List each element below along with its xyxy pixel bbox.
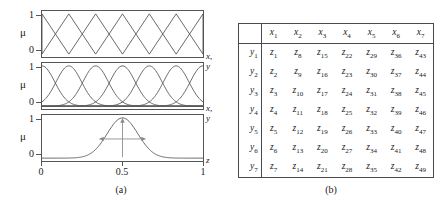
cell-z48: z48 — [408, 139, 433, 158]
triangular-mf-curves — [42, 11, 203, 57]
table-header-row: x1x2x3x4x5x6x7 — [239, 24, 434, 44]
ytick-mark-0-plot3 — [36, 154, 41, 155]
table-row: y3z3z10z17z24z31z38z45 — [239, 82, 434, 101]
column-header-x1: x1 — [261, 24, 285, 44]
cell-z5: z5 — [261, 120, 285, 139]
single-gaussian-plot — [41, 114, 204, 162]
cell-z32: z32 — [359, 101, 384, 120]
ytick-mark-1-plot1 — [36, 15, 41, 16]
cell-z38: z38 — [384, 82, 409, 101]
ytick-1-plot3: 1 — [22, 113, 34, 124]
gaussian-mf-curves — [42, 63, 203, 109]
cell-z33: z33 — [359, 120, 384, 139]
row-header-y1: y1 — [239, 44, 262, 64]
cell-z6: z6 — [261, 139, 285, 158]
cell-z27: z27 — [335, 139, 360, 158]
mu-label-plot3: μ — [20, 130, 26, 142]
ytick-1-plot1: 1 — [22, 9, 34, 20]
ytick-0-plot2: 0 — [22, 96, 34, 107]
cell-z10: z10 — [286, 82, 311, 101]
height-arrow-icon — [120, 118, 125, 157]
cell-z35: z35 — [359, 158, 384, 178]
mu-label-plot1: μ — [20, 26, 26, 38]
table-row: y1z1z8z15z22z29z36z43 — [239, 44, 434, 64]
row-header-y7: y7 — [239, 158, 262, 178]
cell-z19: z19 — [310, 120, 335, 139]
cell-z36: z36 — [384, 44, 409, 64]
xaxis-label-plot1: x, y — [206, 51, 218, 71]
table-row: y7z7z14z21z28z35z42z49 — [239, 158, 434, 178]
cell-z29: z29 — [359, 44, 384, 64]
cell-z30: z30 — [359, 63, 384, 82]
cell-z8: z8 — [286, 44, 311, 64]
caption-a: (a) — [76, 184, 166, 195]
cell-z15: z15 — [310, 44, 335, 64]
cell-z18: z18 — [310, 101, 335, 120]
cell-z22: z22 — [335, 44, 360, 64]
column-header-x4: x4 — [335, 24, 360, 44]
row-header-y4: y4 — [239, 101, 262, 120]
row-header-y2: y2 — [239, 63, 262, 82]
cell-z39: z39 — [384, 101, 409, 120]
xtick-label-0: 0 — [33, 166, 49, 177]
single-gaussian-curve — [42, 115, 203, 161]
cell-z49: z49 — [408, 158, 433, 178]
table-body: y1z1z8z15z22z29z36z43y2z2z9z16z23z30z37z… — [239, 44, 434, 178]
table-row: y2z2z9z16z23z30z37z44 — [239, 63, 434, 82]
cell-z28: z28 — [335, 158, 360, 178]
z-mapping-table: x1x2x3x4x5x6x7 y1z1z8z15z22z29z36z43y2z2… — [238, 23, 434, 178]
cell-z3: z3 — [261, 82, 285, 101]
xaxis-label-plot3: z — [206, 155, 210, 165]
cell-z9: z9 — [286, 63, 311, 82]
cell-z44: z44 — [408, 63, 433, 82]
cell-z23: z23 — [335, 63, 360, 82]
cell-z16: z16 — [310, 63, 335, 82]
cell-z41: z41 — [384, 139, 409, 158]
cell-z13: z13 — [286, 139, 311, 158]
cell-z7: z7 — [261, 158, 285, 178]
mu-label-plot2: μ — [20, 78, 26, 90]
cell-z45: z45 — [408, 82, 433, 101]
row-header-y6: y6 — [239, 139, 262, 158]
cell-z1: z1 — [261, 44, 285, 64]
gaussian-membership-plot — [41, 62, 204, 110]
panel-a: μ 1 0 x, y μ 1 0 x, y — [0, 0, 218, 205]
column-header-x5: x5 — [359, 24, 384, 44]
column-header-x3: x3 — [310, 24, 335, 44]
cell-z20: z20 — [310, 139, 335, 158]
xtick-label-05: 0.5 — [110, 166, 134, 177]
cell-z34: z34 — [359, 139, 384, 158]
table-row: y6z6z13z20z27z34z41z48 — [239, 139, 434, 158]
cell-z37: z37 — [384, 63, 409, 82]
cell-z12: z12 — [286, 120, 311, 139]
cell-z40: z40 — [384, 120, 409, 139]
cell-z31: z31 — [359, 82, 384, 101]
cell-z24: z24 — [335, 82, 360, 101]
cell-z26: z26 — [335, 120, 360, 139]
cell-z17: z17 — [310, 82, 335, 101]
panel-b: x1x2x3x4x5x6x7 y1z1z8z15z22z29z36z43y2z2… — [218, 0, 434, 205]
triangular-membership-plot — [41, 10, 204, 58]
cell-z14: z14 — [286, 158, 311, 178]
cell-z47: z47 — [408, 120, 433, 139]
column-header-x7: x7 — [408, 24, 433, 44]
cell-z43: z43 — [408, 44, 433, 64]
xtick-label-1: 1 — [195, 166, 211, 177]
cell-z42: z42 — [384, 158, 409, 178]
row-header-y5: y5 — [239, 120, 262, 139]
cell-z21: z21 — [310, 158, 335, 178]
figure-root: μ 1 0 x, y μ 1 0 x, y — [0, 0, 434, 205]
ytick-mark-0-plot1 — [36, 50, 41, 51]
column-header-x6: x6 — [384, 24, 409, 44]
cell-z4: z4 — [261, 101, 285, 120]
table-row: y4z4z11z18z25z32z39z46 — [239, 101, 434, 120]
cell-z11: z11 — [286, 101, 311, 120]
table-row: y5z5z12z19z26z33z40z47 — [239, 120, 434, 139]
ytick-mark-1-plot3 — [36, 119, 41, 120]
ytick-mark-0-plot2 — [36, 102, 41, 103]
ytick-0-plot3: 0 — [22, 148, 34, 159]
row-header-y3: y3 — [239, 82, 262, 101]
cell-z25: z25 — [335, 101, 360, 120]
caption-b: (b) — [286, 184, 376, 195]
cell-z46: z46 — [408, 101, 433, 120]
